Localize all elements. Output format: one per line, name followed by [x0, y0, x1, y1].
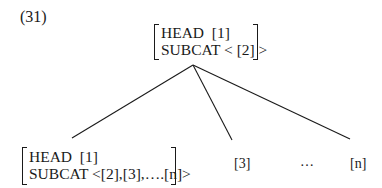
edge-to-complement-3	[193, 65, 232, 140]
daughter-subcat-row: SUBCAT <[2],[3],….[n]>	[29, 165, 191, 182]
ellipsis: …	[300, 154, 314, 170]
edge-to-head-daughter	[72, 65, 193, 138]
root-subcat-value: < [2] >	[224, 41, 267, 58]
root-head-label: HEAD	[161, 24, 204, 41]
root-head-value: [1]	[212, 24, 230, 41]
root-subcat-row: SUBCAT < [2] >	[161, 41, 267, 58]
complement-3: [3]	[234, 156, 250, 172]
daughter-head-value: [1]	[80, 148, 98, 165]
daughter-left-bracket	[22, 147, 27, 185]
complement-n: [n]	[350, 156, 366, 172]
edge-to-complement-n	[193, 65, 350, 139]
daughter-head-label: HEAD	[29, 148, 72, 165]
daughter-head-row: HEAD [1]	[29, 148, 191, 165]
root-subcat-label: SUBCAT	[161, 41, 220, 58]
root-head-row: HEAD [1]	[161, 24, 267, 41]
daughter-subcat-label: SUBCAT	[29, 165, 88, 182]
root-left-bracket	[154, 24, 159, 60]
daughter-subcat-value: <[2],[3],….[n]>	[92, 165, 191, 182]
